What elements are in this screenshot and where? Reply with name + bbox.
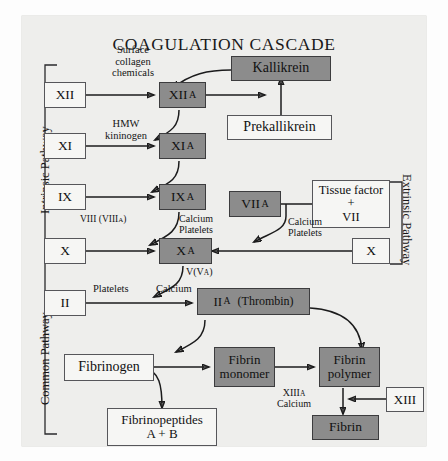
node-fibrin-polymer-line2: polymer <box>328 367 371 381</box>
node-factor-ixa[interactable]: IXA <box>159 184 206 210</box>
note-factor-viii: VIII (VIIIA) <box>80 214 127 225</box>
node-factor-ix[interactable]: IX <box>44 184 86 210</box>
note-calcium-text: Calcium <box>156 283 192 294</box>
note-factor-v-va: V(VA) <box>186 266 212 277</box>
node-factor-viia[interactable]: VIIA <box>229 191 281 217</box>
node-factor-xiia-sub: A <box>189 90 196 100</box>
node-fibrin-polymer-line1: Fibrin <box>334 353 366 367</box>
node-fibrin[interactable]: Fibrin <box>312 415 379 440</box>
note-surface-line2: collagen <box>91 56 175 68</box>
note-calcium-platelets-right-line2: Platelets <box>274 227 336 238</box>
note-hmw-line2: kininogen <box>86 130 166 142</box>
diagram-canvas: COAGULATION CASCADE <box>0 0 448 461</box>
node-fibrinogen[interactable]: Fibrinogen <box>64 354 154 381</box>
pathway-label-extrinsic: Extrinsic Pathway <box>399 174 414 265</box>
node-prekallikrein[interactable]: Prekallikrein <box>227 115 332 140</box>
node-factor-xiii-label: XIII <box>394 393 416 407</box>
node-factor-xia[interactable]: XIA <box>159 133 206 159</box>
node-kallikrein[interactable]: Kallikrein <box>231 56 331 81</box>
node-factor-xia-label: XI <box>171 139 185 153</box>
note-factor-viii-tail: ) <box>123 214 126 224</box>
node-factor-xia-sub: A <box>187 141 194 151</box>
node-thrombin-label: II <box>213 295 222 309</box>
note-factor-v-text: V(V <box>186 266 204 277</box>
node-thrombin-sub: A <box>224 296 231 306</box>
note-hmw-kininogen: HMW kininogen <box>86 118 166 141</box>
node-fibrin-monomer-line2: monomer <box>220 367 270 381</box>
node-fibrin-label: Fibrin <box>329 420 362 434</box>
node-factor-x-left-label: X <box>60 244 70 258</box>
note-calcium-platelets-right: Calcium Platelets <box>274 216 336 238</box>
note-calcium-platelets-right-line1: Calcium <box>274 216 336 227</box>
node-fibrin-monomer-line1: Fibrin <box>229 353 261 367</box>
node-tissue-factor-plus: + <box>347 197 354 210</box>
note-hmw-line1: HMW <box>86 118 166 130</box>
node-factor-ii-label: II <box>61 296 70 310</box>
node-prekallikrein-label: Prekallikrein <box>243 120 315 135</box>
node-factor-xiia-label: XII <box>169 88 188 102</box>
node-factor-viia-sub: A <box>262 199 269 209</box>
node-kallikrein-label: Kallikrein <box>253 61 310 76</box>
node-fibrin-polymer[interactable]: Fibrin polymer <box>319 347 380 387</box>
note-platelets: Platelets <box>93 283 129 295</box>
note-calcium-platelets-left: Calcium Platelets <box>165 213 227 235</box>
node-fibrinopeptides-line1: Fibrinopeptides <box>121 413 203 427</box>
node-tissue-factor-line3: VII <box>342 211 359 224</box>
node-factor-xii-label: XII <box>56 88 75 102</box>
node-factor-viia-label: VII <box>241 197 260 211</box>
note-xiiia-calcium: XIIIA Calcium <box>264 387 324 409</box>
note-xiiia-line1-wrap: XIIIA <box>264 387 324 398</box>
node-fibrinopeptides[interactable]: Fibrinopeptides A + B <box>107 408 217 446</box>
node-factor-xii[interactable]: XII <box>44 82 86 108</box>
node-fibrin-monomer[interactable]: Fibrin monomer <box>214 347 275 387</box>
node-factor-x-right-label: X <box>366 244 376 258</box>
note-xiiia-sub: A <box>300 389 305 398</box>
note-calcium: Calcium <box>156 283 192 295</box>
note-surface-line1: Surface <box>91 44 175 56</box>
node-factor-xi-label: XI <box>58 139 72 153</box>
node-factor-ixa-label: IX <box>171 190 185 204</box>
node-fibrinogen-label: Fibrinogen <box>78 360 139 375</box>
note-calcium-platelets-left-line1: Calcium <box>165 213 227 224</box>
note-xiiia-line1: XIII <box>283 387 300 398</box>
node-fibrinopeptides-line2: A + B <box>146 427 177 441</box>
diagram-plate: COAGULATION CASCADE <box>22 16 426 446</box>
node-factor-x-right[interactable]: X <box>352 238 390 264</box>
node-factor-ixa-sub: A <box>187 192 194 202</box>
node-factor-ix-label: IX <box>58 190 72 204</box>
node-factor-xa[interactable]: XA <box>159 238 212 264</box>
note-xiiia-line2: Calcium <box>264 398 324 409</box>
node-factor-xiii[interactable]: XIII <box>386 387 424 412</box>
node-factor-ii[interactable]: II <box>44 290 86 316</box>
node-factor-xi[interactable]: XI <box>44 133 86 159</box>
note-factor-v-tail: ) <box>209 266 212 277</box>
note-surface-collagen-chemicals: Surface collagen chemicals <box>91 44 175 79</box>
note-surface-line3: chemicals <box>91 67 175 79</box>
node-factor-xa-label: X <box>176 244 186 258</box>
node-factor-xa-sub: A <box>188 246 195 256</box>
note-calcium-platelets-left-line2: Platelets <box>165 224 227 235</box>
node-factor-x-left[interactable]: X <box>44 238 86 264</box>
node-thrombin-suffix: (Thrombin) <box>238 295 294 308</box>
node-thrombin[interactable]: IIA(Thrombin) <box>197 288 310 315</box>
pathway-label-common: Common Pathway <box>38 312 53 405</box>
note-platelets-text: Platelets <box>93 283 129 294</box>
note-factor-viii-text: VIII (VIII <box>80 214 118 224</box>
node-factor-xiia[interactable]: XIIA <box>159 82 206 108</box>
